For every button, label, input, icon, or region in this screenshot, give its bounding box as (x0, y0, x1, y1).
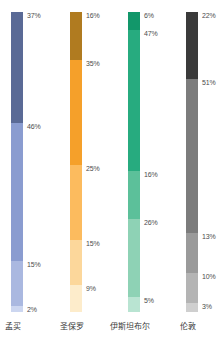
bar-segment[interactable]: 51% (186, 79, 198, 234)
bar-segment[interactable]: 10% (186, 273, 198, 303)
bar-segment-value-label: 2% (27, 305, 37, 314)
bar-segment[interactable]: 16% (70, 12, 82, 60)
bar-segment[interactable]: 47% (128, 30, 140, 171)
bar-segment-value-label: 16% (144, 170, 158, 179)
bar-segment-value-label: 37% (27, 11, 41, 20)
bar-segment-value-label: 25% (86, 164, 100, 173)
bar-segment[interactable]: 9% (70, 285, 82, 312)
bar-segment-value-label: 13% (202, 232, 216, 241)
category-label: 伦敦 (153, 322, 221, 332)
bar-segment[interactable]: 22% (186, 12, 198, 79)
bar-segment-value-label: 3% (202, 302, 212, 311)
bar-segment-value-label: 16% (86, 11, 100, 20)
bar-segment[interactable]: 25% (70, 165, 82, 240)
bar-segment[interactable]: 35% (70, 60, 82, 165)
bar-segment[interactable]: 37% (11, 12, 23, 123)
bar-segment-value-label: 51% (202, 78, 216, 87)
bar-segment-value-label: 26% (144, 218, 158, 227)
bar-segment-value-label: 10% (202, 272, 216, 281)
bar-segment-value-label: 46% (27, 122, 41, 131)
stacked-bar-chart: 37%46%15%2%孟买16%35%25%15%9%圣保罗6%47%16%26… (0, 0, 221, 344)
bar-stack[interactable]: 22%51%13%10%3% (186, 12, 198, 312)
bar-segment-value-label: 6% (144, 11, 154, 20)
bar-segment[interactable]: 2% (11, 306, 23, 312)
bar-segment-value-label: 35% (86, 59, 100, 68)
bar-segment[interactable]: 5% (128, 297, 140, 312)
bar-segment[interactable]: 6% (128, 12, 140, 30)
bar-segment[interactable]: 46% (11, 123, 23, 261)
bar-segment-value-label: 15% (27, 260, 41, 269)
bar-segment[interactable]: 13% (186, 233, 198, 272)
bar-stack[interactable]: 37%46%15%2% (11, 12, 23, 312)
bar-stack[interactable]: 16%35%25%15%9% (70, 12, 82, 312)
bar-stack[interactable]: 6%47%16%26%5% (128, 12, 140, 312)
bar-segment-value-label: 5% (144, 296, 154, 305)
bar-segment[interactable]: 16% (128, 171, 140, 219)
bar-segment[interactable]: 26% (128, 219, 140, 297)
bar-segment-value-label: 47% (144, 29, 158, 38)
bar-segment[interactable]: 15% (11, 261, 23, 306)
bar-segment-value-label: 22% (202, 11, 216, 20)
bar-segment-value-label: 15% (86, 239, 100, 248)
bar-segment[interactable]: 3% (186, 303, 198, 312)
bar-segment-value-label: 9% (86, 284, 96, 293)
bar-segment[interactable]: 15% (70, 240, 82, 285)
